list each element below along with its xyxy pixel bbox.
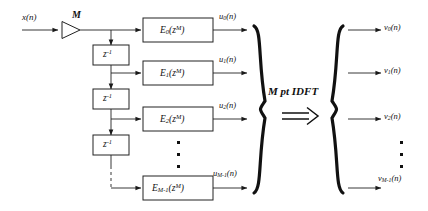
downsampler-factor-label: M [72, 10, 81, 20]
delay-label-2: z-1 [103, 139, 112, 149]
input-signal-label: x(n) [22, 13, 37, 22]
diagram-lines-layer [0, 0, 428, 211]
polyphase-label-1: E1(zM) [160, 68, 184, 79]
u-signal-label-0: u0(n) [219, 12, 236, 22]
ellipsis-dot-polyphase-2 [177, 153, 180, 156]
v-signal-label-0: v0(n) [384, 23, 401, 33]
u-signal-label-1: u1(n) [219, 55, 236, 65]
ellipsis-dot-polyphase-3 [177, 165, 180, 168]
ellipsis-dot-output-3 [400, 165, 403, 168]
v-signal-label-1: v1(n) [384, 66, 401, 76]
delay-label-1: z-1 [103, 93, 112, 103]
downsampler-triangle-icon [62, 22, 80, 39]
idft-label: M pt IDFT [268, 86, 318, 97]
double-arrow-right-icon [282, 108, 318, 125]
right-curly-brace-icon [332, 26, 343, 193]
ellipsis-dot-polyphase-1 [177, 141, 180, 144]
polyphase-label-3: EM-1(zM) [152, 183, 184, 194]
ellipsis-dot-output-1 [400, 141, 403, 144]
left-curly-brace-icon [254, 26, 265, 193]
v-signal-label-2: v2(n) [384, 112, 401, 122]
v-signal-label-3: vM-1(n) [378, 174, 401, 184]
figure-canvas: x(n) M z-1 z-1 z-1 E0(zM) E1(zM) E2(zM) … [0, 0, 428, 211]
u-signal-label-3: uM-1(n) [213, 169, 237, 179]
polyphase-label-2: E2(zM) [160, 114, 184, 125]
ellipsis-dot-output-2 [400, 153, 403, 156]
u-signal-label-2: u2(n) [219, 101, 236, 111]
polyphase-label-0: E0(zM) [160, 25, 184, 36]
delay-label-0: z-1 [103, 49, 112, 59]
